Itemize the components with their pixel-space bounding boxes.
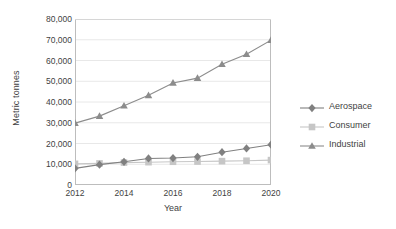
line-chart: Metric tonnes 010,00020,00030,00040,0005… bbox=[0, 0, 396, 229]
x-axis-tick-label: 2012 bbox=[66, 188, 85, 198]
x-axis-tick-label: 2020 bbox=[262, 188, 281, 198]
legend-item-industrial[interactable]: Industrial bbox=[299, 134, 393, 153]
legend-label: Industrial bbox=[325, 139, 366, 149]
x-axis-tick-label: 2018 bbox=[213, 188, 232, 198]
x-axis-tick-label: 2014 bbox=[115, 188, 134, 198]
legend-item-aerospace[interactable]: Aerospace bbox=[299, 96, 393, 115]
x-axis-title-text: Year bbox=[164, 203, 182, 213]
x-axis-title: Year bbox=[75, 203, 271, 213]
data-point-marker bbox=[308, 103, 315, 111]
chart-legend: AerospaceConsumerIndustrial bbox=[299, 96, 393, 153]
legend-marker-square-icon bbox=[299, 119, 325, 131]
data-point-marker bbox=[309, 123, 316, 130]
legend-marker-diamond-icon bbox=[299, 100, 325, 112]
legend-marker-triangle-icon bbox=[299, 138, 325, 150]
legend-key-svg bbox=[299, 121, 325, 133]
legend-label: Consumer bbox=[325, 120, 371, 130]
legend-key-svg bbox=[299, 102, 325, 114]
legend-item-consumer[interactable]: Consumer bbox=[299, 115, 393, 134]
x-axis-tick-label: 2016 bbox=[164, 188, 183, 198]
legend-label: Aerospace bbox=[325, 101, 372, 111]
legend-key-svg bbox=[299, 140, 325, 152]
